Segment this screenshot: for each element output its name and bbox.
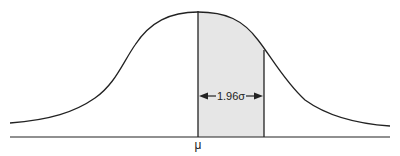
normal-distribution-diagram: 1.96σ μ xyxy=(0,0,400,156)
shaded-region xyxy=(198,12,264,137)
interval-label: 1.96σ xyxy=(217,90,245,102)
mean-label: μ xyxy=(195,138,202,152)
